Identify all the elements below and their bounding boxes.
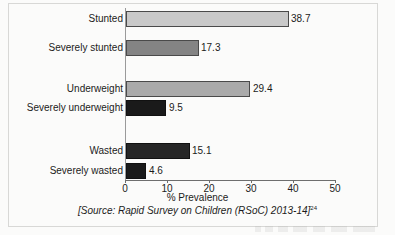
value-label-underweight: 29.4 xyxy=(253,83,272,95)
category-label-stunted: Stunted xyxy=(89,13,123,25)
source-note-text: [Source: Rapid Survey on Children (RSoC)… xyxy=(78,205,310,216)
bar-underweight xyxy=(126,81,250,97)
chart-figure: 0 10 20 30 40 50 Stunted 38.7 Severely s… xyxy=(0,0,395,235)
source-note: [Source: Rapid Survey on Children (RSoC)… xyxy=(0,205,395,216)
category-label-severely-stunted: Severely stunted xyxy=(49,42,124,54)
scan-artifact xyxy=(255,226,375,232)
bar-severely-stunted xyxy=(126,40,199,56)
value-label-wasted: 15.1 xyxy=(192,145,211,157)
source-superscript: 24 xyxy=(310,205,317,211)
value-label-severely-stunted: 17.3 xyxy=(201,42,220,54)
x-axis-line xyxy=(125,180,336,181)
bar-severely-underweight xyxy=(126,100,166,116)
value-label-severely-underweight: 9.5 xyxy=(169,102,183,114)
category-label-underweight: Underweight xyxy=(67,83,123,95)
bar-wasted xyxy=(126,143,190,159)
bar-stunted xyxy=(126,11,289,27)
category-label-wasted: Wasted xyxy=(89,145,123,157)
category-label-severely-underweight: Severely underweight xyxy=(27,102,123,114)
x-axis-title: % Prevalence xyxy=(0,192,395,203)
plot-area: 0 10 20 30 40 50 Stunted 38.7 Severely s… xyxy=(0,0,395,235)
bar-severely-wasted xyxy=(126,163,146,179)
category-label-severely-wasted: Severely wasted xyxy=(50,165,123,177)
value-label-severely-wasted: 4.6 xyxy=(149,165,163,177)
value-label-stunted: 38.7 xyxy=(291,13,310,25)
